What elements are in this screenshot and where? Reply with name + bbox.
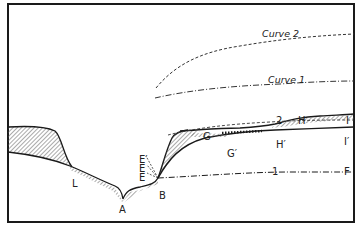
label-F: F: [344, 166, 350, 177]
curve-2-label: Curve 2: [262, 28, 299, 39]
label-H-prime: H′: [276, 139, 287, 150]
frame-border: [8, 4, 354, 222]
label-I-prime: I′: [344, 136, 350, 147]
label-H: H: [298, 115, 306, 126]
label-B: B: [159, 190, 166, 201]
cross-section-diagram: Curve 2 Curve 1 L A B E′ E E G G′ 2 H H′…: [0, 0, 361, 225]
label-E-1: E: [139, 172, 145, 183]
label-I: I: [346, 115, 349, 126]
curve-2-line: [156, 34, 354, 88]
line-1: [158, 172, 354, 178]
label-A: A: [119, 204, 126, 215]
label-G: G: [203, 131, 211, 142]
curve-1-line: [155, 81, 354, 98]
label-num-1: 1: [272, 166, 278, 177]
e-dbl-prime-line: [147, 165, 158, 178]
curve-1-label: Curve 1: [268, 74, 305, 85]
label-L: L: [72, 178, 78, 189]
e-line: [147, 173, 158, 178]
right-wall-hatch: [158, 130, 200, 178]
label-num-2: 2: [276, 115, 282, 126]
e-prime-line: [146, 156, 158, 178]
label-G-prime: G′: [227, 148, 238, 159]
